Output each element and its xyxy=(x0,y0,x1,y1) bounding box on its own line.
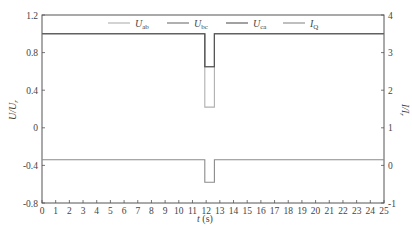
x-tick-label: 21 xyxy=(325,206,335,216)
right-y-tick-label: 4 xyxy=(388,11,393,21)
series-u-bc xyxy=(42,34,384,67)
x-tick-label: 0 xyxy=(40,206,45,216)
x-tick-label: 24 xyxy=(366,206,376,216)
plot-border xyxy=(42,15,384,203)
left-y-tick-label: 0.4 xyxy=(26,86,38,96)
legend-item-u-ab: Uab xyxy=(108,18,149,31)
right-y-tick-label: 0 xyxy=(388,161,393,171)
series-u-ca xyxy=(42,34,384,67)
left-y-axis-title: U/Ur xyxy=(7,100,20,120)
x-tick-label: 18 xyxy=(283,206,293,216)
right-y-tick-label: 3 xyxy=(388,48,393,58)
left-y-tick-label: 0.8 xyxy=(26,48,38,58)
x-tick-label: 15 xyxy=(242,206,252,216)
legend-label: Uab xyxy=(135,18,149,31)
x-tick-label: 22 xyxy=(338,206,348,216)
x-tick-label: 16 xyxy=(256,206,266,216)
legend-label: Ubc xyxy=(194,18,208,31)
right-y-tick-label: -1 xyxy=(388,199,396,209)
x-axis: 0123456789101112131415161718192021222324… xyxy=(40,200,389,216)
right-y-axis-title: I/Ir xyxy=(398,103,411,116)
x-tick-label: 10 xyxy=(174,206,184,216)
x-tick-label: 11 xyxy=(188,206,197,216)
right-y-tick-label: 1 xyxy=(388,123,393,133)
series-u-ab xyxy=(42,34,384,107)
series-i-q xyxy=(42,160,384,183)
plot-area xyxy=(42,15,384,203)
x-tick-label: 9 xyxy=(163,206,168,216)
legend: UabUbcUcaIQ xyxy=(108,18,318,31)
left-y-tick-label: -0.8 xyxy=(23,199,38,209)
left-y-tick-label: -0.4 xyxy=(23,161,38,171)
x-tick-label: 3 xyxy=(81,206,86,216)
x-tick-label: 6 xyxy=(122,206,127,216)
x-tick-label: 14 xyxy=(229,206,239,216)
x-tick-label: 19 xyxy=(297,206,307,216)
left-y-tick-label: 0 xyxy=(33,123,38,133)
right-y-tick-label: 2 xyxy=(388,86,393,96)
x-tick-label: 13 xyxy=(215,206,225,216)
legend-item-u-ca: Uca xyxy=(226,18,267,31)
legend-item-i-q: IQ xyxy=(283,18,318,31)
right-y-axis: 43210-1 xyxy=(381,11,396,209)
x-tick-label: 1 xyxy=(53,206,58,216)
chart: 0123456789101112131415161718192021222324… xyxy=(0,0,412,236)
x-tick-label: 2 xyxy=(67,206,72,216)
series-layer xyxy=(42,34,384,183)
x-tick-label: 4 xyxy=(94,206,99,216)
legend-label: IQ xyxy=(309,18,318,31)
x-tick-label: 23 xyxy=(352,206,362,216)
left-y-tick-label: 1.2 xyxy=(26,11,38,21)
x-tick-label: 17 xyxy=(270,206,280,216)
x-tick-label: 5 xyxy=(108,206,113,216)
x-tick-label: 8 xyxy=(149,206,154,216)
legend-item-u-bc: Ubc xyxy=(167,18,208,31)
legend-label: Uca xyxy=(253,18,267,31)
x-tick-label: 7 xyxy=(135,206,140,216)
x-tick-label: 20 xyxy=(311,206,321,216)
x-axis-title: t (s) xyxy=(197,213,213,225)
